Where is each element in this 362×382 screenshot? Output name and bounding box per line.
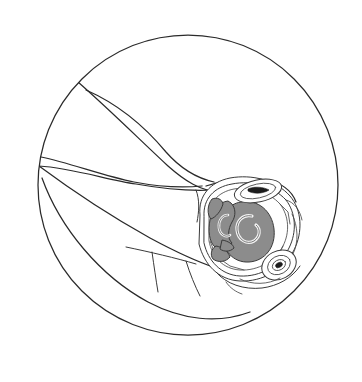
anatomical-illustration-svg — [0, 0, 362, 382]
figure-background — [0, 0, 362, 382]
figure-root — [0, 0, 362, 382]
